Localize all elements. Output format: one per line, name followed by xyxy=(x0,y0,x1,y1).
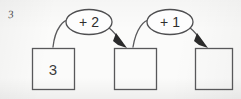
arrow-head-into-middle-box xyxy=(113,33,127,48)
function-machine-diagram: + 2 + 1 3 xyxy=(0,0,241,99)
worksheet-canvas: 3 + 2 + 1 3 xyxy=(0,0,241,99)
arrow-head-into-end-box xyxy=(194,33,208,48)
start-box-value: 3 xyxy=(49,61,57,78)
middle-box[interactable] xyxy=(115,49,157,90)
operation-label-add-2: + 2 xyxy=(79,14,99,30)
end-box[interactable] xyxy=(196,49,233,90)
operation-label-add-1: + 1 xyxy=(160,14,180,30)
